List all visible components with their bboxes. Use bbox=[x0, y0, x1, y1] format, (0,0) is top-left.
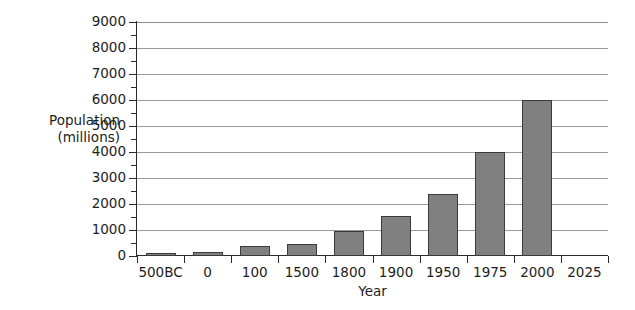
x-axis-tick bbox=[278, 256, 279, 263]
x-axis-tick bbox=[325, 256, 326, 263]
y-axis-label: 4000 bbox=[72, 145, 126, 158]
y-axis-label: 7000 bbox=[72, 67, 126, 80]
y-axis-label: 2000 bbox=[72, 197, 126, 210]
y-axis-line bbox=[136, 21, 137, 257]
x-axis-tick bbox=[467, 256, 468, 263]
bar bbox=[522, 100, 552, 256]
x-axis-title: Year bbox=[137, 283, 608, 299]
x-axis-tick bbox=[561, 256, 562, 263]
bar bbox=[428, 194, 458, 256]
y-axis-label: 0 bbox=[72, 249, 126, 262]
y-axis-label: 6000 bbox=[72, 93, 126, 106]
bar bbox=[334, 231, 364, 256]
x-axis-label: 2025 bbox=[549, 265, 619, 280]
y-axis-label: 8000 bbox=[72, 41, 126, 54]
y-axis-label: 9000 bbox=[72, 15, 126, 28]
x-axis-tick bbox=[514, 256, 515, 263]
x-axis-tick bbox=[608, 256, 609, 263]
population-bar-chart: Population (millions) 010002000300040005… bbox=[0, 0, 635, 310]
y-axis-label: 3000 bbox=[72, 171, 126, 184]
bar bbox=[475, 152, 505, 256]
x-axis-tick bbox=[184, 256, 185, 263]
gridline bbox=[137, 48, 608, 49]
x-axis-tick bbox=[420, 256, 421, 263]
x-axis-tick bbox=[231, 256, 232, 263]
bar bbox=[287, 244, 317, 256]
x-axis-tick bbox=[137, 256, 138, 263]
bar bbox=[193, 252, 223, 256]
gridline bbox=[137, 22, 608, 23]
bar bbox=[240, 246, 270, 256]
y-axis-label: 5000 bbox=[72, 119, 126, 132]
y-axis-label: 1000 bbox=[72, 223, 126, 236]
bar bbox=[381, 216, 411, 256]
gridline bbox=[137, 74, 608, 75]
x-axis-tick bbox=[373, 256, 374, 263]
bar bbox=[146, 253, 176, 256]
